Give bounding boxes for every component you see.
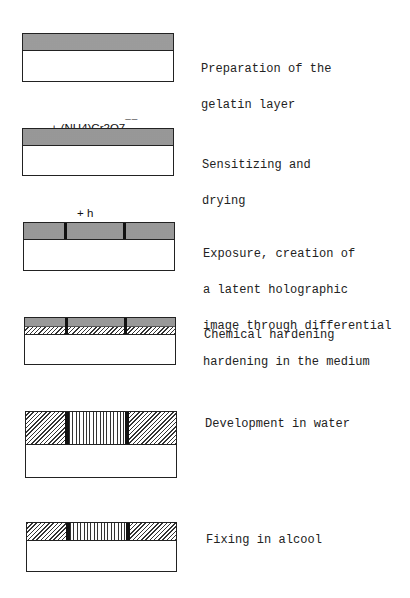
substrate-box — [23, 222, 175, 271]
caption-line: hardening in the medium — [203, 356, 392, 368]
step-caption: Preparation of the gelatin layer — [201, 39, 332, 135]
hatched-region — [26, 412, 66, 444]
reagent-label: + h — [77, 207, 93, 219]
exposed-fringe-bar — [123, 223, 126, 239]
gelatin-layer — [23, 34, 173, 51]
hardened-layer-stack — [25, 318, 175, 335]
hatched-region — [129, 412, 176, 444]
vertical-stripe-region — [70, 523, 126, 540]
step-caption: Exposure, creation of a latent holograph… — [203, 224, 392, 392]
exposed-gelatin-layer — [24, 223, 174, 240]
dotted-sublayer — [25, 318, 175, 326]
caption-line: Preparation of the — [201, 63, 332, 75]
step-caption: Development in water — [205, 418, 350, 430]
caption-line: Exposure, creation of — [203, 248, 392, 260]
swollen-gelatin-layer — [26, 412, 176, 445]
caption-line: gelatin layer — [201, 99, 332, 111]
substrate-box — [22, 33, 174, 82]
caption-line: drying — [202, 195, 311, 207]
caption-line: a latent holographic — [203, 284, 392, 296]
substrate-box — [26, 522, 177, 572]
step-caption: Sensitizing and drying — [202, 135, 311, 231]
substrate-box — [22, 128, 174, 176]
hatched-sublayer — [25, 326, 175, 334]
caption-line: Sensitizing and — [202, 159, 311, 171]
step-caption: Fixing in alcool — [206, 534, 322, 546]
substrate-box — [25, 411, 177, 478]
substrate-box — [24, 317, 176, 365]
sensitized-gelatin-layer — [23, 129, 173, 146]
exposed-fringe-bar — [64, 223, 67, 239]
hatched-region — [27, 523, 67, 540]
vertical-stripe-region — [69, 412, 126, 444]
hardened-fringe-bar — [124, 318, 127, 334]
hardened-fringe-bar — [65, 318, 68, 334]
hatched-region — [130, 523, 176, 540]
step-caption: Chemical hardening — [204, 329, 335, 341]
fixed-gelatin-layer — [27, 523, 176, 541]
